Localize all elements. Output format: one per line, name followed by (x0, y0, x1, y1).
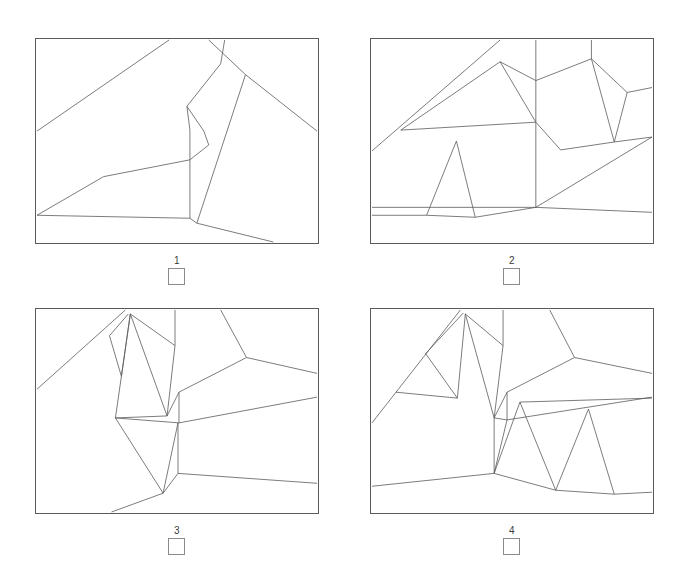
sketch-stroke (536, 59, 592, 81)
sketch-stroke (130, 314, 175, 346)
sketch-stroke (167, 346, 175, 416)
sketch-stroke (247, 358, 318, 374)
sketch-stroke (115, 416, 167, 418)
sketch-stroke (591, 59, 614, 142)
panel-cell-4: 4 (341, 282, 683, 563)
sketch-stroke (190, 218, 197, 223)
sketch-stroke (130, 314, 167, 416)
sketch-stroke (536, 137, 652, 207)
sketch-panel-4 (370, 308, 654, 514)
sketch-stroke (426, 313, 464, 354)
sketch-stroke (575, 358, 652, 374)
sketch-stroke (494, 346, 503, 418)
sketch-stroke (550, 310, 575, 358)
panel-cell-3: 3 (0, 282, 341, 563)
panel-cell-1: 1 (0, 0, 341, 282)
sketch-stroke (494, 418, 507, 420)
sketch-stroke (556, 409, 589, 490)
sketch-stroke (115, 314, 130, 418)
sketch-stroke (507, 358, 575, 393)
panel-label-3: 3 (157, 525, 197, 537)
sketch-stroke (221, 310, 247, 358)
sketch-stroke (627, 88, 652, 93)
sketch-stroke (591, 59, 627, 93)
sketch-stroke (178, 473, 317, 483)
sketch-stroke (465, 314, 494, 418)
sketch-stroke (427, 141, 457, 215)
sketch-stroke (179, 358, 247, 393)
sketch-stroke (204, 131, 209, 145)
sketch-stroke (109, 336, 121, 377)
sketch-stroke (187, 64, 221, 107)
sketch-stroke (246, 75, 317, 131)
sketch-stroke (457, 314, 465, 398)
sketch-stroke (37, 310, 125, 389)
panel-grid: 1 2 3 4 (0, 0, 683, 563)
sketch-stroke (111, 493, 163, 512)
sketch-stroke (401, 62, 500, 130)
sketch-stroke (37, 40, 169, 131)
sketch-stroke (396, 392, 458, 398)
sketch-stroke (614, 92, 627, 142)
sketch-stroke (197, 223, 273, 242)
sketch-drawing-2 (371, 39, 653, 243)
sketch-stroke (104, 160, 190, 177)
sketch-drawing-4 (371, 309, 653, 513)
sketch-stroke (536, 207, 652, 212)
sketch-stroke (179, 397, 317, 423)
sketch-stroke (372, 473, 494, 486)
sketch-stroke (115, 418, 179, 423)
sketch-stroke (427, 215, 476, 217)
panel-checkbox-3[interactable] (168, 538, 185, 555)
sketch-stroke (465, 314, 503, 346)
sketch-panel-2 (370, 38, 654, 244)
sketch-stroke (494, 473, 556, 490)
sketch-stroke (556, 490, 615, 494)
sketch-stroke (190, 145, 209, 160)
sketch-stroke (494, 420, 507, 473)
sketch-stroke (115, 418, 163, 493)
sketch-stroke (37, 177, 104, 216)
sketch-stroke (209, 40, 246, 75)
sketch-drawing-3 (36, 309, 318, 513)
sketch-stroke (37, 215, 190, 218)
sketch-stroke (614, 492, 652, 494)
sketch-drawing-1 (36, 39, 318, 243)
sketch-stroke (167, 392, 179, 416)
panel-cell-2: 2 (341, 0, 683, 282)
sketch-stroke (109, 314, 128, 336)
sketch-stroke (426, 354, 458, 399)
sketch-stroke (614, 137, 652, 142)
panel-label-2: 2 (492, 255, 532, 267)
panel-label-1: 1 (157, 255, 197, 267)
sketch-stroke (456, 141, 475, 217)
sketch-stroke (536, 122, 561, 150)
sketch-stroke (588, 409, 614, 494)
sketch-stroke (475, 207, 536, 217)
sketch-panel-3 (35, 308, 319, 514)
sketch-panel-1 (35, 38, 319, 244)
sketch-stroke (561, 142, 615, 150)
panel-checkbox-4[interactable] (503, 538, 520, 555)
sketch-stroke (401, 122, 536, 130)
sketch-stroke (372, 40, 500, 151)
panel-label-4: 4 (492, 525, 532, 537)
sketch-stroke (372, 310, 460, 423)
